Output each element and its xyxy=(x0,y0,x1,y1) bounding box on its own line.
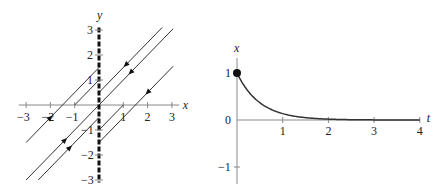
x-tick-label: −2 xyxy=(41,110,54,124)
solution-curve xyxy=(237,73,420,120)
x-axis-label: x xyxy=(182,98,189,112)
y-tick-label: 3 xyxy=(87,23,93,37)
solution-curve xyxy=(99,66,173,142)
x-tick-label: 3 xyxy=(169,110,175,124)
y-tick-label: 2 xyxy=(87,48,93,62)
y-tick-label: −1 xyxy=(81,123,94,137)
x-tick-label: 1 xyxy=(225,66,231,80)
solution-chart: 1234t10−1x xyxy=(218,41,431,184)
y-tick-label: −3 xyxy=(81,173,94,187)
solution-curve xyxy=(99,29,173,105)
phase-plane-chart: −3−2−1123x321−1−2−3y xyxy=(17,8,189,187)
t-tick-label: 4 xyxy=(417,124,423,138)
t-axis-label: t xyxy=(427,111,431,125)
x-tick-label: 0 xyxy=(225,113,231,127)
x-tick-label: 2 xyxy=(145,110,151,124)
x-tick-label: −1 xyxy=(66,110,79,124)
solution-curve xyxy=(99,28,162,93)
initial-point-dot xyxy=(233,69,241,77)
x-axis-label: x xyxy=(233,41,240,55)
x-tick-label: −1 xyxy=(218,160,231,174)
y-tick-label: −2 xyxy=(81,148,94,162)
figure: −3−2−1123x321−1−2−3y 1234t10−1x xyxy=(0,0,446,194)
y-tick-label: 1 xyxy=(87,73,93,87)
t-tick-label: 1 xyxy=(280,124,286,138)
t-tick-label: 2 xyxy=(325,124,331,138)
solution-curve xyxy=(26,105,99,180)
y-axis-label: y xyxy=(96,8,103,22)
x-tick-label: −3 xyxy=(17,110,30,124)
t-tick-label: 3 xyxy=(371,124,377,138)
